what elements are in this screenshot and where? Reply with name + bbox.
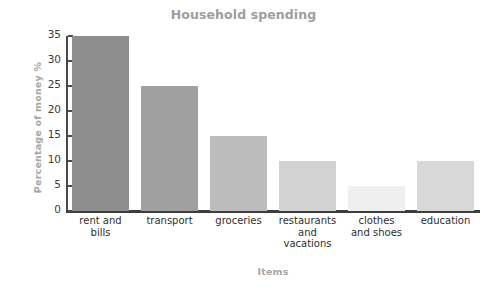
x-axis-category-label: education	[407, 215, 484, 227]
x-axis-category-label-line: bills	[62, 227, 139, 239]
x-axis-category-label: rent andbills	[62, 215, 139, 238]
x-axis-category-label: groceries	[200, 215, 277, 227]
bar	[210, 136, 267, 211]
bar-chart: Household spending Percentage of money %…	[0, 0, 487, 291]
x-axis-category-label-line: clothes	[338, 215, 415, 227]
x-axis-category-label-line: and	[269, 227, 346, 239]
x-axis-category-label-line: and shoes	[338, 227, 415, 239]
bar-series	[66, 36, 480, 211]
y-axis-tick-label: 10	[48, 153, 61, 166]
y-axis-tick-label: 25	[48, 78, 61, 91]
x-axis-category-label-line: restaurants	[269, 215, 346, 227]
x-axis-category-label-line: transport	[131, 215, 208, 227]
x-axis-category-label: clothesand shoes	[338, 215, 415, 238]
x-axis-title: Items	[66, 266, 480, 277]
y-axis-tick-label: 5	[54, 178, 61, 191]
bar	[348, 186, 405, 211]
y-axis-tick-label: 30	[48, 53, 61, 66]
bar	[279, 161, 336, 211]
y-axis-tick-label: 0	[54, 203, 61, 216]
x-axis-category-label-line: vacations	[269, 238, 346, 250]
bar	[141, 86, 198, 211]
x-axis-category-label: restaurantsandvacations	[269, 215, 346, 250]
y-axis-title: Percentage of money %	[32, 48, 43, 208]
x-axis-category-label: transport	[131, 215, 208, 227]
y-axis-tick-label: 15	[48, 128, 61, 141]
chart-title: Household spending	[0, 7, 487, 22]
x-axis-category-label-line: groceries	[200, 215, 277, 227]
bar	[72, 36, 129, 211]
x-axis-category-labels: rent andbillstransportgroceriesrestauran…	[66, 215, 480, 265]
x-axis-category-label-line: education	[407, 215, 484, 227]
y-axis-tick-label: 20	[48, 103, 61, 116]
y-axis-tick-label: 35	[48, 28, 61, 41]
x-axis-category-label-line: rent and	[62, 215, 139, 227]
bar	[417, 161, 474, 211]
plot-area: 05101520253035	[66, 36, 480, 211]
